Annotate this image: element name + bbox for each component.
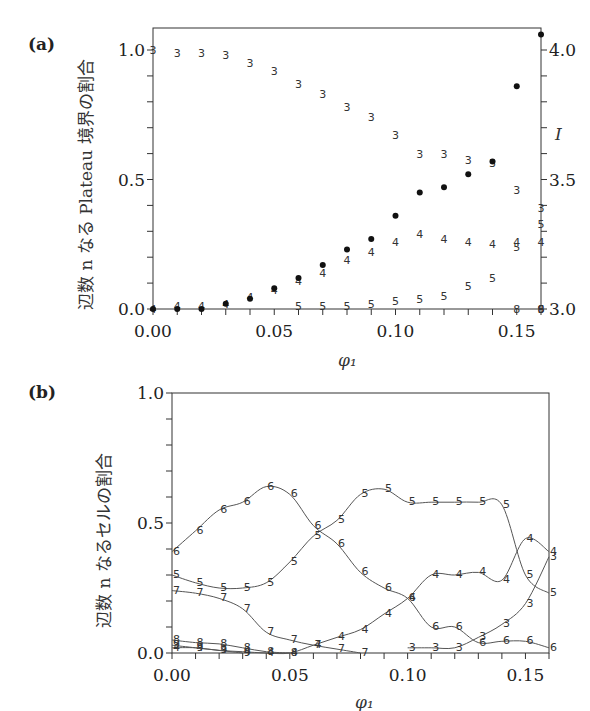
panel-a-point-n4: 4 bbox=[441, 233, 448, 246]
panel-b-point-n6: 6 bbox=[220, 503, 227, 516]
panel-a: (a) 辺数 n なる Plateau 境界の割合 I φ₁ 0.000.050… bbox=[28, 28, 576, 370]
panel-a-y-tick-label: 0.0 bbox=[118, 299, 145, 319]
panel-b-point-n7: 7 bbox=[244, 602, 251, 615]
panel-b-point-n4: 4 bbox=[409, 591, 416, 604]
panel-a-x-tick-label: 0.10 bbox=[377, 321, 415, 341]
panel-a-point-n5: 5 bbox=[416, 293, 423, 306]
panel-a-point-n3: 3 bbox=[222, 49, 229, 62]
panel-a-y-tick-label: 1.0 bbox=[118, 40, 145, 60]
panel-a-point-n3: 3 bbox=[271, 65, 278, 78]
panel-b-point-n7: 7 bbox=[362, 646, 369, 659]
panel-b-point-n9: 9 bbox=[173, 638, 180, 651]
panel-a-point-n5: 5 bbox=[441, 290, 448, 303]
panel-b-point-n5: 5 bbox=[479, 495, 486, 508]
panel-b-point-n4: 4 bbox=[362, 623, 369, 636]
panel-b-point-n7: 7 bbox=[338, 642, 345, 655]
panel-a-point-n4: 4 bbox=[465, 236, 472, 249]
panel-a-point-n3: 3 bbox=[392, 129, 399, 142]
panel-b-point-n7: 7 bbox=[173, 584, 180, 597]
panel-a-x-tick-label: 0.00 bbox=[134, 321, 172, 341]
panel-b-x-tick-label: 0.00 bbox=[153, 665, 191, 685]
panel-b-point-n6: 6 bbox=[173, 545, 180, 558]
panel-a-xlabel: φ₁ bbox=[338, 350, 357, 370]
panel-b-point-n6: 6 bbox=[503, 634, 510, 647]
panel-a-point-n4: 4 bbox=[368, 246, 375, 259]
panel-b-point-n7: 7 bbox=[220, 591, 227, 604]
panel-a-point-I bbox=[538, 31, 544, 37]
panel-b-x-tick-label: 0.05 bbox=[271, 665, 309, 685]
panel-a-x-tick-label: 0.05 bbox=[255, 321, 293, 341]
panel-a-y2-tick-label: 4.0 bbox=[549, 40, 576, 60]
panel-b-point-n5: 5 bbox=[385, 482, 392, 495]
panel-a-point-n4: 4 bbox=[538, 236, 545, 249]
panel-b-point-n6: 6 bbox=[362, 565, 369, 578]
panel-a-point-n4: 4 bbox=[344, 254, 351, 267]
panel-b-curve-n6 bbox=[172, 486, 549, 648]
panel-a-point-I bbox=[441, 184, 447, 190]
panel-b-y-tick-label: 1.0 bbox=[137, 383, 164, 403]
panel-a-point-n3: 3 bbox=[368, 111, 375, 124]
panel-a-point-n3: 3 bbox=[150, 44, 157, 57]
panel-a-point-n5: 5 bbox=[392, 295, 399, 308]
panel-b-x-tick-label: 0.10 bbox=[389, 665, 427, 685]
panel-b-point-n7: 7 bbox=[267, 625, 274, 638]
panel-b-point-n4: 4 bbox=[338, 630, 345, 643]
panel-b-point-n5: 5 bbox=[244, 581, 251, 594]
panel-a-point-I bbox=[465, 171, 471, 177]
panel-b-point-n4: 4 bbox=[314, 638, 321, 651]
panel-b-point-n6: 6 bbox=[526, 634, 533, 647]
panel-a-point-I bbox=[490, 158, 496, 164]
panel-a-point-n5: 5 bbox=[319, 300, 326, 313]
panel-a-point-n3: 3 bbox=[198, 47, 205, 60]
panel-b-label: (b) bbox=[28, 382, 56, 402]
panel-b-point-n3: 3 bbox=[526, 597, 533, 610]
panel-b-point-n4: 4 bbox=[526, 532, 533, 545]
panel-b-point-n6: 6 bbox=[432, 620, 439, 633]
panel-b-point-n8: 8 bbox=[291, 646, 298, 659]
panel-a-point-I bbox=[344, 246, 350, 252]
panel-b-point-n6: 6 bbox=[338, 537, 345, 550]
panel-b-point-n4: 4 bbox=[479, 565, 486, 578]
panel-a-point-n4: 4 bbox=[416, 228, 423, 241]
panel-b-y-tick-label: 0.0 bbox=[137, 643, 164, 663]
panel-b-point-n5: 5 bbox=[526, 568, 533, 581]
panel-a-plot-frame bbox=[153, 28, 541, 309]
panel-b-curve-n4 bbox=[172, 538, 549, 654]
panel-b-y-tick-label: 0.5 bbox=[137, 513, 164, 533]
panel-b-point-n5: 5 bbox=[456, 495, 463, 508]
panel-b-point-n3: 3 bbox=[503, 617, 510, 630]
panel-a-point-n8: 8 bbox=[513, 303, 520, 316]
panel-b: (b) 辺数 n なるセルの割合 φ₁ 0.000.050.100.150.00… bbox=[28, 382, 557, 711]
panel-b-point-n3: 3 bbox=[456, 641, 463, 654]
panel-b-point-n6: 6 bbox=[197, 524, 204, 537]
panel-a-point-n3: 3 bbox=[465, 154, 472, 167]
panel-a-point-n3: 3 bbox=[538, 202, 545, 215]
panel-b-point-n5: 5 bbox=[362, 487, 369, 500]
panel-b-point-n4: 4 bbox=[432, 568, 439, 581]
panel-a-point-n9: 9 bbox=[538, 303, 545, 316]
panel-b-point-n5: 5 bbox=[503, 498, 510, 511]
panel-b-point-n3: 3 bbox=[479, 630, 486, 643]
panel-a-point-I bbox=[393, 213, 399, 219]
panel-b-point-n6: 6 bbox=[291, 487, 298, 500]
panel-a-point-n5: 5 bbox=[465, 280, 472, 293]
panel-a-point-n3: 3 bbox=[513, 184, 520, 197]
panel-b-ylabel: 辺数 n なるセルの割合 bbox=[94, 453, 114, 628]
panel-a-y-tick-label: 0.5 bbox=[118, 170, 145, 190]
panel-a-point-I bbox=[247, 296, 253, 302]
panel-a-point-I bbox=[223, 301, 229, 307]
panel-a-point-n3: 3 bbox=[319, 88, 326, 101]
panel-a-point-n5: 5 bbox=[513, 241, 520, 254]
panel-b-point-n4: 4 bbox=[385, 607, 392, 620]
panel-a-point-I bbox=[150, 306, 156, 312]
panel-a-point-n3: 3 bbox=[295, 78, 302, 91]
figure: (a) 辺数 n なる Plateau 境界の割合 I φ₁ 0.000.050… bbox=[0, 0, 590, 711]
panel-b-point-n4: 4 bbox=[456, 568, 463, 581]
panel-b-point-n3: 3 bbox=[409, 641, 416, 654]
panel-a-point-I bbox=[271, 285, 277, 291]
panel-a-point-n3: 3 bbox=[441, 148, 448, 161]
panel-b-point-n9: 9 bbox=[244, 646, 251, 659]
panel-a-x-tick-label: 0.15 bbox=[498, 321, 536, 341]
panel-a-point-n5: 5 bbox=[538, 218, 545, 231]
panel-a-point-n5: 5 bbox=[489, 272, 496, 285]
